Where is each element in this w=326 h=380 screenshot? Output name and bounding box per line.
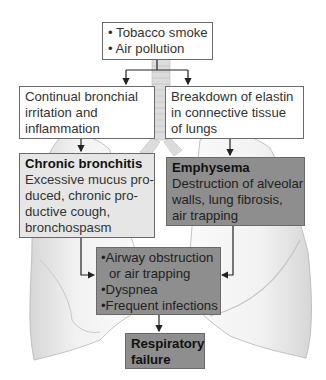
emphysema-line: air trapping — [172, 208, 299, 224]
right-mechanism-line: Breakdown of elastin — [171, 89, 298, 105]
consequence-line: •Airway obstruction — [101, 250, 216, 266]
consequence-line: •Frequent infections — [101, 298, 216, 314]
causes-box: • Tobacco smoke • Air pollution — [102, 22, 213, 60]
left-mechanism-line: irritation and — [25, 105, 149, 121]
consequence-line: or air trapping — [101, 266, 216, 282]
emphysema-line: walls, lung fibrosis, — [172, 192, 299, 208]
respiratory-failure-box: Respiratory failure — [125, 333, 205, 369]
emphysema-line: Destruction of alveolar — [172, 176, 299, 192]
chronic-bronchitis-title: Chronic bronchitis — [25, 156, 149, 172]
chronic-bronchitis-line: bronchospasm — [25, 220, 149, 236]
chronic-bronchitis-line: Excessive mucus pro- — [25, 172, 149, 188]
outcome-line: failure — [131, 352, 199, 368]
chronic-bronchitis-line: ductive cough, — [25, 204, 149, 220]
right-mechanism-line: in connective tissue — [171, 105, 298, 121]
left-mechanism-line: inflammation — [25, 121, 149, 137]
right-mechanism-line: of lungs — [171, 121, 298, 137]
bronchial-irritation-box: Continual bronchial irritation and infla… — [19, 86, 155, 139]
elastin-breakdown-box: Breakdown of elastin in connective tissu… — [165, 86, 304, 139]
chronic-bronchitis-box: Chronic bronchitis Excessive mucus pro- … — [19, 153, 155, 238]
outcome-line: Respiratory — [131, 336, 199, 352]
left-mechanism-line: Continual bronchial — [25, 89, 149, 105]
cause-tobacco-smoke: • Tobacco smoke — [108, 25, 207, 41]
emphysema-box: Emphysema Destruction of alveolar walls,… — [166, 157, 305, 226]
chronic-bronchitis-line: duced, chronic pro- — [25, 188, 149, 204]
emphysema-title: Emphysema — [172, 160, 299, 176]
consequence-line: •Dyspnea — [101, 282, 216, 298]
cause-air-pollution: • Air pollution — [108, 41, 207, 57]
consequences-box: •Airway obstruction or air trapping •Dys… — [96, 247, 221, 315]
